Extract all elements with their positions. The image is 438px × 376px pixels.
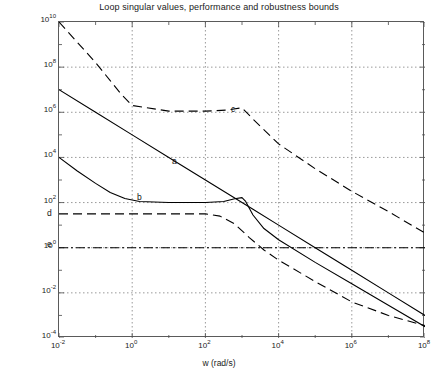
curve-d — [59, 214, 425, 326]
y-tick-label: 10-4 — [26, 332, 56, 340]
curve-label-d: d — [47, 209, 52, 217]
curve-b — [59, 157, 425, 326]
figure-canvas: Loop singular values, performance and ro… — [0, 0, 438, 376]
x-tick-label: 108 — [404, 342, 438, 350]
x-tick-label: 106 — [331, 342, 371, 350]
curve-label-e: e — [47, 240, 52, 248]
curve-a — [59, 90, 425, 316]
x-axis-title: w (rad/s) — [0, 358, 438, 368]
data-curves — [59, 22, 425, 327]
y-tick-label: 106 — [26, 106, 56, 114]
y-tick-label: 1010 — [26, 16, 56, 24]
chart-title: Loop singular values, performance and ro… — [0, 2, 438, 12]
y-axis-tick-labels: 101010810610410210010-210-4 — [20, 0, 56, 376]
plot-svg — [59, 22, 425, 338]
y-tick-label: 108 — [26, 61, 56, 69]
y-tick-label: 102 — [26, 197, 56, 205]
x-axis-tick-labels: 10-2100102104106108 — [58, 342, 438, 356]
x-tick-label: 10-2 — [38, 342, 78, 350]
x-tick-label: 100 — [111, 342, 151, 350]
grid-lines — [59, 22, 425, 338]
x-tick-label: 104 — [258, 342, 298, 350]
x-tick-label: 102 — [184, 342, 224, 350]
y-tick-label: 10-2 — [26, 287, 56, 295]
curve-label-a: a — [172, 157, 177, 165]
plot-area — [58, 21, 424, 337]
tick-marks — [59, 22, 425, 338]
curve-label-c: c — [231, 105, 235, 113]
y-tick-label: 104 — [26, 151, 56, 159]
curve-label-b: b — [137, 193, 142, 201]
curve-c — [59, 22, 425, 233]
